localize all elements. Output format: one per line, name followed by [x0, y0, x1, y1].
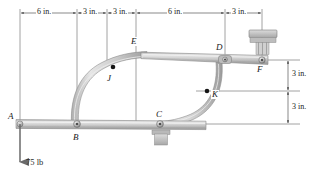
- dimension-label-top-5: 3 in.: [231, 8, 247, 16]
- left-curved-member: [71, 52, 147, 124]
- point-label-a: A: [8, 112, 14, 121]
- support-c-block: [152, 130, 170, 145]
- figure-canvas: 6 in. 3 in. 3 in. 6 in. 3 in. 3 in. 3 in…: [0, 0, 309, 186]
- support-f-block: [249, 30, 277, 55]
- point-label-j: J: [107, 74, 111, 83]
- dimension-label-top-3: 3 in.: [112, 8, 128, 16]
- point-label-c: C: [155, 110, 163, 119]
- dimension-label-right-2: 3 in.: [292, 103, 306, 111]
- point-label-e: E: [130, 37, 138, 46]
- point-label-d: D: [215, 43, 224, 52]
- upper-horizontal-bar: [141, 52, 268, 64]
- point-label-f: F: [257, 65, 263, 74]
- dimension-label-top-1: 6 in.: [36, 8, 52, 16]
- dimension-label-right-1: 3 in.: [292, 70, 306, 78]
- lower-horizontal-bar: [16, 120, 206, 130]
- load-label: 75 lb: [26, 158, 43, 167]
- point-label-b: B: [73, 133, 79, 142]
- pin-joints: [17, 56, 265, 128]
- point-label-k: K: [211, 90, 219, 99]
- dimension-label-top-4: 6 in.: [167, 8, 183, 16]
- frame-diagram-svg: [0, 0, 309, 186]
- point-markers: [111, 65, 210, 94]
- dimension-label-top-2: 3 in.: [82, 8, 98, 16]
- top-extension-lines: [20, 9, 262, 122]
